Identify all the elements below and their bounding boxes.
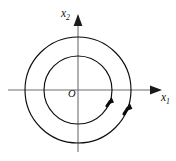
x2-axis-arrow-icon bbox=[74, 14, 83, 26]
x1-axis-label: x1 bbox=[160, 91, 170, 106]
origin-label: O bbox=[68, 88, 76, 99]
x2-axis-label: x2 bbox=[60, 7, 70, 22]
x1-axis-label-subscript: 1 bbox=[166, 97, 170, 106]
x2-axis-label-subscript: 2 bbox=[66, 13, 70, 22]
phase-portrait-figure: x1 x2 O bbox=[0, 0, 176, 161]
phase-portrait-canvas: x1 x2 O bbox=[0, 0, 176, 161]
